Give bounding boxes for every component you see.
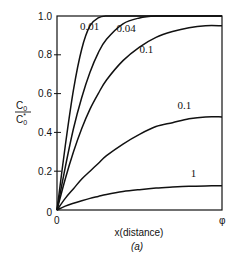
curve-1-4 — [57, 186, 222, 210]
curve-label: 0.1 — [140, 43, 154, 55]
y-axis-denominator: C0* — [16, 112, 27, 126]
subfigure-label: (a) — [131, 241, 143, 252]
x-tick-phi: φ — [219, 215, 226, 226]
y-tick-label: 0 — [46, 207, 52, 218]
curve-label: 0.1 — [177, 99, 191, 111]
y-axis-numerator: C0 — [16, 100, 27, 112]
y-tick-label: 0.4 — [38, 127, 52, 138]
x-axis-title: x(distance) — [115, 227, 164, 238]
y-tick-label: 0.2 — [38, 166, 52, 177]
curve-labels: 0.010.040.10.11 — [80, 20, 196, 179]
y-tick-label: 0.6 — [38, 88, 52, 99]
y-tick-label: 0.8 — [38, 49, 52, 60]
curve-label: 0.04 — [116, 22, 136, 34]
x-tick-0: 0 — [54, 215, 60, 226]
y-tick-label: 1.0 — [38, 11, 52, 22]
curve-label: 1 — [191, 167, 197, 179]
y-axis-title: C0 C0* — [15, 100, 31, 126]
curve-0-1-3 — [57, 117, 222, 210]
chart: 00.20.40.60.81.0 0.010.040.10.11 0 φ x(d… — [0, 0, 236, 256]
curve-label: 0.01 — [80, 20, 99, 32]
